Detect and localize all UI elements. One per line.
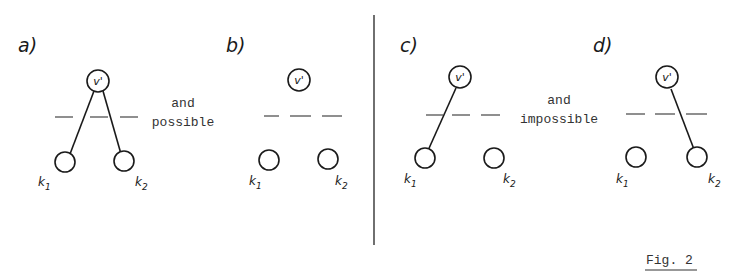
panel-label-a: a) — [18, 34, 37, 56]
node-k1 — [415, 148, 435, 168]
edge-v-k1 — [426, 88, 456, 155]
panel-d: d) v' k1 k2 — [593, 34, 721, 189]
panel-a: a) v' k1 k2 — [18, 34, 148, 192]
node-v-prime-label: v' — [93, 75, 103, 88]
node-k1-label: k1 — [38, 175, 51, 192]
panel-label-d: d) — [593, 34, 612, 56]
node-k1-label: k1 — [616, 172, 629, 189]
node-k2 — [687, 147, 707, 167]
node-k2-label: k2 — [335, 174, 348, 191]
node-k1 — [626, 147, 646, 167]
panel-label-b: b) — [226, 34, 245, 56]
node-k1-label: k1 — [249, 174, 262, 191]
node-v-prime-label: v' — [455, 71, 465, 84]
node-k2 — [114, 151, 134, 171]
node-k1 — [259, 150, 279, 170]
edge-v-k2 — [671, 89, 695, 152]
figure-canvas: a) v' k1 k2 and possible b) v' k1 k2 c) … — [0, 0, 747, 279]
panel-label-c: c) — [400, 34, 418, 56]
panel-c: c) v' k1 k2 — [400, 34, 516, 189]
node-k2-label: k2 — [135, 175, 148, 192]
node-v-prime-label: v' — [662, 71, 672, 84]
edge-v-k2 — [103, 91, 121, 154]
node-k1 — [55, 152, 75, 172]
edge-v-k1 — [70, 91, 94, 154]
node-k2 — [318, 149, 338, 169]
connector-and-impossible: and — [547, 93, 570, 108]
figure-caption: Fig. 2 — [646, 253, 693, 268]
node-k2-label: k2 — [503, 172, 516, 189]
connector-impossible: impossible — [520, 112, 598, 127]
connector-possible: possible — [152, 115, 214, 130]
node-v-prime-label: v' — [294, 74, 304, 87]
node-k1-label: k1 — [404, 172, 417, 189]
node-k2 — [484, 148, 504, 168]
node-k2-label: k2 — [708, 172, 721, 189]
connector-and-possible: and — [171, 96, 194, 111]
panel-b: b) v' k1 k2 — [226, 34, 348, 191]
